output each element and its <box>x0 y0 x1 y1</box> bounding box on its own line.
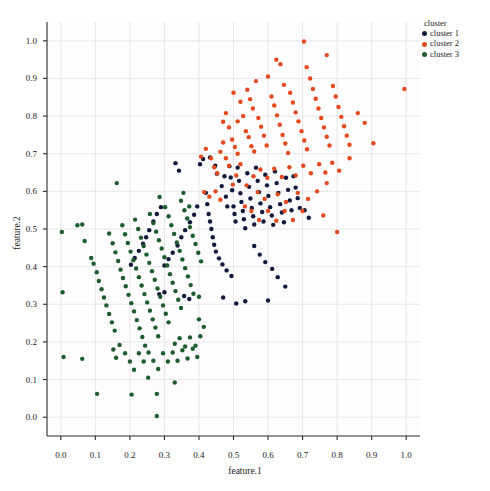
data-point <box>157 195 161 199</box>
data-point <box>145 300 149 304</box>
data-point <box>293 173 297 177</box>
data-point <box>159 205 163 209</box>
data-point <box>113 250 117 254</box>
data-point <box>129 392 133 396</box>
data-point <box>102 295 106 299</box>
data-point <box>99 287 103 291</box>
data-point <box>242 217 246 221</box>
data-point <box>211 235 215 239</box>
data-point <box>173 380 177 384</box>
data-point <box>335 230 339 234</box>
data-point <box>104 303 108 307</box>
data-point <box>284 176 288 180</box>
legend-marker-icon <box>422 42 427 47</box>
data-point <box>205 202 209 206</box>
data-point <box>286 151 290 155</box>
legend-marker-icon <box>422 31 427 36</box>
data-point <box>246 135 250 139</box>
data-point <box>232 212 236 216</box>
data-point <box>135 318 139 322</box>
data-point <box>123 232 127 236</box>
data-point <box>251 174 255 178</box>
data-point <box>191 292 195 296</box>
data-point <box>280 133 284 137</box>
data-point <box>323 170 327 174</box>
data-point <box>153 325 157 329</box>
data-point <box>198 334 202 338</box>
x-tick-label: 0.3 <box>159 450 170 460</box>
legend: cluster cluster 1cluster 2cluster 3 <box>422 18 488 60</box>
data-point <box>156 334 160 338</box>
data-point <box>146 350 150 354</box>
data-point <box>60 230 64 234</box>
data-point <box>220 262 224 266</box>
data-point <box>270 267 274 271</box>
data-point <box>248 196 252 200</box>
data-point <box>337 168 341 172</box>
data-point <box>224 194 228 198</box>
legend-item-label: cluster 3 <box>430 50 459 60</box>
y-tick-label: 0.1 <box>11 375 37 385</box>
data-point <box>182 208 186 212</box>
data-point <box>330 161 334 165</box>
data-point <box>164 311 168 315</box>
data-point <box>154 229 158 233</box>
data-point <box>155 286 159 290</box>
data-point <box>139 235 143 239</box>
data-point <box>177 168 181 172</box>
legend-item-cluster-3[interactable]: cluster 3 <box>422 50 488 60</box>
data-point <box>150 317 154 321</box>
data-point <box>238 191 242 195</box>
legend-item-cluster-2[interactable]: cluster 2 <box>422 39 488 49</box>
data-point <box>128 359 132 363</box>
data-point <box>268 205 272 209</box>
data-point <box>283 141 287 145</box>
data-point <box>214 249 218 253</box>
data-point <box>180 348 184 352</box>
data-point <box>262 133 266 137</box>
data-point <box>213 189 217 193</box>
data-point <box>269 94 273 98</box>
data-point <box>278 62 282 66</box>
data-point <box>218 197 222 201</box>
data-point <box>293 185 297 189</box>
data-point <box>252 222 256 226</box>
data-point <box>347 156 351 160</box>
data-point <box>124 284 128 288</box>
data-point <box>188 283 192 287</box>
data-point <box>245 88 249 92</box>
data-point <box>235 165 239 169</box>
x-tick-label: 0.8 <box>331 450 342 460</box>
data-point <box>225 204 229 208</box>
data-point <box>255 179 259 183</box>
data-point <box>255 190 259 194</box>
data-point <box>299 129 303 133</box>
data-point <box>80 222 84 226</box>
data-point <box>171 251 175 255</box>
data-point <box>188 225 192 229</box>
data-point <box>177 249 181 253</box>
data-point <box>162 290 166 294</box>
data-point <box>244 183 248 187</box>
data-point <box>275 113 279 117</box>
data-point <box>266 298 270 302</box>
data-point <box>179 199 183 203</box>
data-point <box>238 100 242 104</box>
data-point <box>185 216 189 220</box>
x-axis-label: feature.1 <box>0 466 490 476</box>
data-point <box>173 289 177 293</box>
data-point <box>263 260 267 264</box>
data-point <box>233 219 237 223</box>
legend-entries: cluster 1cluster 2cluster 3 <box>422 29 488 59</box>
data-point <box>137 275 141 279</box>
data-point <box>251 106 255 110</box>
data-point <box>266 74 270 78</box>
y-tick-label: 0.0 <box>11 412 37 422</box>
data-point <box>197 295 201 299</box>
data-point <box>175 240 179 244</box>
data-point <box>315 189 319 193</box>
data-point <box>209 227 213 231</box>
data-point <box>215 171 219 175</box>
data-point <box>168 272 172 276</box>
data-point <box>260 210 264 214</box>
